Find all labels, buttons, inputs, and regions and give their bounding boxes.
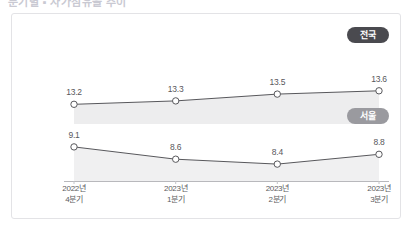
x-axis-tick-label: 2023년2분기 [266,184,289,205]
tick-label-year: 2022년 [62,184,85,193]
data-point-marker[interactable] [274,161,280,167]
data-point-label: 13.5 [269,77,285,87]
x-axis-tick-label: 2022년4분기 [62,184,85,205]
data-point-marker[interactable] [173,98,179,104]
area-fill-national [74,91,379,124]
data-point-label: 13.2 [66,87,82,97]
data-point-marker[interactable] [376,151,382,157]
data-point-label: 8.8 [373,137,384,147]
tick-label-quarter: 4분기 [62,195,85,206]
tick-label-year: 2023년 [367,184,390,193]
x-axis-tick-label: 2023년1분기 [164,184,187,205]
header-fragment-text: 분기별 ▪ 자가점유율 추이 [8,0,127,9]
data-point-marker[interactable] [173,156,179,162]
tick-label-year: 2023년 [164,184,187,193]
cropped-header-fragment: 분기별 ▪ 자가점유율 추이 [0,0,420,9]
data-point-marker[interactable] [376,88,382,94]
legend-badge-seoul[interactable]: 서울 [347,108,389,124]
legend-badge-national[interactable]: 전국 [347,27,389,43]
tick-label-quarter: 2분기 [266,195,289,206]
data-point-marker[interactable] [274,91,280,97]
tick-label-quarter: 1분기 [164,195,187,206]
data-point-label: 8.6 [170,142,181,152]
data-point-marker[interactable] [71,101,77,107]
data-point-label: 9.1 [68,130,79,140]
x-axis-tick-label: 2023년3분기 [367,184,390,205]
chart-card: 13.213.313.513.6 9.18.68.48.8 2022년4분기20… [11,13,401,219]
tick-label-year: 2023년 [266,184,289,193]
tick-label-quarter: 3분기 [367,195,390,206]
data-point-marker[interactable] [71,144,77,150]
plot-area: 13.213.313.513.6 9.18.68.48.8 2022년4분기20… [12,14,400,218]
data-point-label: 13.3 [168,84,184,94]
data-point-label: 13.6 [371,74,387,84]
data-point-label: 8.4 [272,147,283,157]
